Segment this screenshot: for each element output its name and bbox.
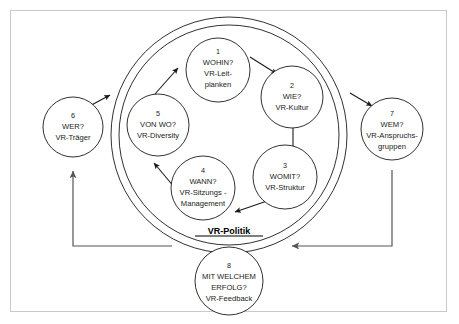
node-7-number: 7 bbox=[390, 109, 394, 118]
node-7-answer-line2: gruppen bbox=[378, 142, 406, 151]
node-8-question: MIT WELCHEM bbox=[202, 272, 256, 281]
node-8[interactable]: 8 MIT WELCHEM ERFOLG? VR-Feedback bbox=[195, 247, 263, 315]
node-8-answer-line2: VR-Feedback bbox=[206, 294, 253, 303]
node-8-circle bbox=[195, 247, 263, 315]
node-1[interactable]: 1 WOHIN? VR-Leit- planken bbox=[186, 38, 250, 102]
node-5-number: 5 bbox=[156, 109, 160, 118]
node-7-question: WEM? bbox=[381, 120, 404, 129]
node-8-answer-line1: ERFOLG? bbox=[211, 283, 246, 292]
node-4[interactable]: 4 WANN? VR-Sitzungs - Management bbox=[171, 156, 235, 220]
node-6-answer-line1: VR-Träger bbox=[55, 133, 91, 142]
ring-label: VR-Politik bbox=[208, 226, 251, 236]
node-4-answer-line1: VR-Sitzungs - bbox=[180, 188, 227, 197]
node-6[interactable]: 6 WER? VR-Träger bbox=[43, 97, 103, 157]
node-3-question: WOMIT? bbox=[270, 172, 300, 181]
node-5-question: VON WO? bbox=[140, 120, 176, 129]
arrow-1-to-2 bbox=[250, 57, 277, 74]
node-3[interactable]: 3 WOMIT? VR-Struktur bbox=[253, 145, 317, 209]
node-2-answer-line1: VR-Kultur bbox=[276, 103, 309, 112]
node-7-answer-line1: VR-Anspruchs- bbox=[366, 131, 418, 140]
node-2-question: WIE? bbox=[283, 92, 302, 101]
node-5-answer-line1: VR-Diversity bbox=[137, 131, 179, 140]
node-1-number: 1 bbox=[216, 47, 220, 56]
node-1-answer-line2: planken bbox=[205, 80, 232, 89]
node-4-answer-line2: Management bbox=[181, 199, 226, 208]
node-3-answer-line1: VR-Struktur bbox=[265, 183, 305, 192]
node-4-number: 4 bbox=[201, 166, 205, 175]
feedback-line-left bbox=[73, 171, 172, 246]
node-7[interactable]: 7 WEM? VR-Anspruchs- gruppen bbox=[361, 98, 423, 160]
node-6-question: WER? bbox=[62, 122, 84, 131]
diagram-canvas: 1 WOHIN? VR-Leit- planken 2 WIE? VR-Kult… bbox=[0, 0, 459, 324]
node-3-number: 3 bbox=[283, 161, 287, 170]
node-2[interactable]: 2 WIE? VR-Kultur bbox=[261, 66, 323, 128]
arrow-5-to-1 bbox=[155, 68, 178, 94]
node-4-question: WANN? bbox=[189, 177, 216, 186]
node-1-answer-line1: VR-Leit- bbox=[204, 69, 232, 78]
node-1-question: WOHIN? bbox=[203, 58, 233, 67]
node-8-number: 8 bbox=[227, 261, 231, 270]
node-6-number: 6 bbox=[71, 111, 75, 120]
arrow-ring-to-7 bbox=[350, 93, 372, 106]
node-5[interactable]: 5 VON WO? VR-Diversity bbox=[127, 94, 189, 156]
diagram-root: 1 WOHIN? VR-Leit- planken 2 WIE? VR-Kult… bbox=[0, 0, 459, 324]
node-2-number: 2 bbox=[290, 81, 294, 90]
